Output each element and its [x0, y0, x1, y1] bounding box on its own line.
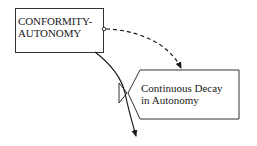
info-link-origin-icon — [102, 27, 106, 31]
rate-label-line1: Continuous Decay — [141, 82, 223, 94]
level-label-line2: AUTONOMY — [18, 27, 92, 39]
rate-label-line2: in Autonomy — [141, 94, 223, 106]
level-label: CONFORMITY- AUTONOMY — [18, 15, 92, 39]
rate-label: Continuous Decay in Autonomy — [141, 82, 223, 106]
info-link-dashed-arrow — [106, 29, 181, 68]
level-label-line1: CONFORMITY- — [18, 15, 92, 27]
